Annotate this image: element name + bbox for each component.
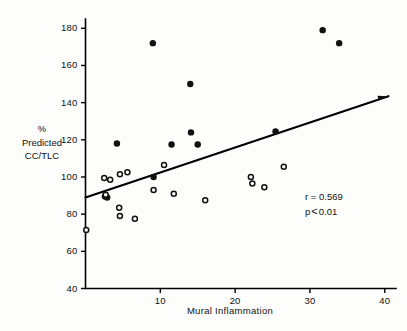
data-point-open	[248, 174, 253, 179]
y-tick-label-180: 180	[46, 22, 78, 33]
data-point-open	[103, 192, 108, 197]
y-tick-label-140: 140	[46, 97, 78, 108]
data-point-open	[281, 164, 286, 169]
regression-line-tip	[378, 96, 389, 101]
y-axis-title-line-2: Predicted	[6, 136, 78, 150]
data-point-open	[162, 162, 167, 167]
data-point-open	[102, 175, 107, 180]
y-tick-label-100: 100	[46, 171, 78, 182]
correlation-text: r = 0.569	[305, 190, 343, 204]
scatter-plot-figure: 406080100120140160180 10203040 % Predict…	[0, 0, 407, 331]
data-point-open	[117, 205, 122, 210]
data-point-open	[262, 185, 267, 190]
data-point-filled	[150, 174, 156, 180]
data-points	[84, 27, 343, 233]
x-tick-label-40: 40	[369, 295, 401, 306]
data-point-filled	[187, 81, 193, 87]
pvalue-value: 0.01	[319, 206, 338, 217]
x-axis-title: Mural Inflammation	[120, 305, 340, 316]
data-point-open	[117, 172, 122, 177]
y-tick-label-160: 160	[46, 59, 78, 70]
data-point-open	[125, 170, 130, 175]
data-point-open	[84, 227, 89, 232]
axis-spine	[86, 19, 397, 289]
y-tick-label-40: 40	[46, 283, 78, 294]
data-point-filled	[150, 40, 156, 46]
y-tick-label-80: 80	[46, 208, 78, 219]
regression-line	[86, 96, 389, 198]
data-point-open	[108, 177, 113, 182]
data-point-filled	[319, 27, 325, 33]
y-axis-title-line-3: CC/TLC	[6, 149, 78, 163]
y-axis-title-line-1: %	[6, 122, 78, 136]
data-point-filled	[188, 129, 194, 135]
data-point-open	[132, 216, 137, 221]
x-tick-label-30: 30	[294, 295, 326, 306]
data-point-open	[250, 181, 255, 186]
regression-fit-line	[86, 96, 389, 197]
axes	[81, 19, 396, 293]
data-point-open	[203, 198, 208, 203]
x-tick-label-20: 20	[219, 295, 251, 306]
x-tick-label-10: 10	[144, 295, 176, 306]
data-point-filled	[272, 128, 278, 134]
data-point-open	[117, 214, 122, 219]
y-tick-label-60: 60	[46, 245, 78, 256]
less-than-icon: <	[310, 205, 318, 217]
statistics-annotation: r = 0.569 p<0.01	[305, 190, 343, 219]
data-point-open	[171, 191, 176, 196]
data-point-filled	[336, 40, 342, 46]
data-point-open	[151, 187, 156, 192]
pvalue-text: p<0.01	[305, 204, 343, 219]
plot-canvas	[0, 0, 407, 331]
y-axis-title: % Predicted CC/TLC	[6, 122, 78, 163]
data-point-filled	[195, 141, 201, 147]
data-point-filled	[114, 140, 120, 146]
data-point-filled	[168, 141, 174, 147]
